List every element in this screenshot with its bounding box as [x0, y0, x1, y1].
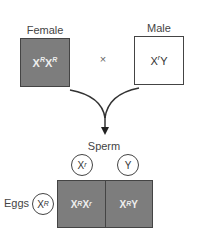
punnett-square: XRXr XRY	[57, 180, 153, 228]
offspring-cell-female: XRXr	[58, 181, 105, 227]
eggs-label: Eggs	[4, 197, 29, 209]
offspring-cell-male: XRY	[105, 181, 153, 227]
sperm-label: Sperm	[84, 140, 124, 152]
egg-allele-xR: XR	[32, 193, 54, 215]
sperm-allele-xr: Xr	[71, 154, 93, 176]
sperm-allele-y: Y	[117, 154, 139, 176]
